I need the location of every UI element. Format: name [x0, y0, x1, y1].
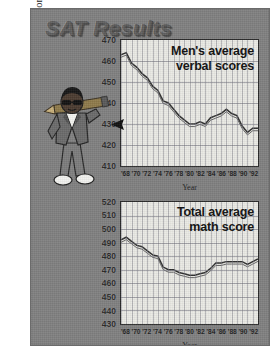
chart-verbal: 470 460 450 440 430 420 410 [89, 39, 261, 191]
grid-line-v [153, 202, 154, 324]
grid-line-h [121, 145, 258, 146]
grid-line-v [168, 202, 169, 324]
x-tick: '90 [239, 170, 248, 177]
grid-line-v [163, 202, 164, 324]
figure-root: Source: Copyright 1993. USA TODAY. Repri… [0, 0, 278, 355]
x-tick: '80 [185, 328, 194, 335]
x-tick: '86 [217, 170, 226, 177]
x-tick: '78 [174, 328, 183, 335]
x-tick: '92 [249, 328, 258, 335]
x-tick: '76 [164, 328, 173, 335]
x-tick: '70 [132, 170, 141, 177]
x-tick: '70 [132, 328, 141, 335]
grid-line-v [132, 202, 133, 324]
figure-panel: SAT Results [30, 8, 270, 346]
y-tick: 500 [102, 224, 116, 234]
chart-math: 520 510 500 490 480 470 460 450 440 430 [89, 201, 261, 346]
chart-verbal-x-axis: '68'70'72'74'76'78'80'82'84'86'88'90'92 [120, 170, 259, 180]
x-tick: '72 [142, 328, 151, 335]
y-tick: 480 [102, 251, 116, 261]
x-tick: '82 [196, 170, 205, 177]
y-tick: 470 [102, 35, 116, 45]
x-tick: '86 [217, 328, 226, 335]
chart-math-y-axis: 520 510 500 490 480 470 460 450 440 430 [89, 201, 118, 325]
chart-verbal-caption: Men's average verbal scores [171, 44, 254, 74]
chart-verbal-x-axis-title: Year [120, 183, 259, 192]
x-tick: '88 [228, 328, 237, 335]
grid-line-v [137, 202, 138, 324]
grid-line-h [121, 256, 258, 257]
grid-line-v [158, 202, 159, 324]
pointer-arrow-icon [111, 119, 127, 130]
y-tick: 460 [102, 56, 116, 66]
grid-line-v [121, 202, 122, 324]
grid-line-h [121, 297, 258, 298]
y-tick: 440 [102, 306, 116, 316]
x-tick: '68 [121, 170, 130, 177]
x-tick: '84 [206, 170, 215, 177]
grid-line-v [258, 40, 259, 166]
caption-line-2: verbal scores [171, 59, 254, 74]
y-tick: 470 [102, 265, 116, 275]
y-tick: 450 [102, 292, 116, 302]
chart-math-caption: Total average math score [177, 205, 254, 235]
y-tick: 430 [102, 319, 116, 329]
x-tick: '74 [153, 328, 162, 335]
grid-line-v [147, 202, 148, 324]
chart-math-x-axis: '68'70'72'74'76'78'80'82'84'86'88'90'92 [120, 328, 259, 338]
grid-line-h [121, 243, 258, 244]
x-tick: '72 [142, 170, 151, 177]
grid-line-v [126, 202, 127, 324]
x-tick: '74 [153, 170, 162, 177]
grid-line-h [121, 270, 258, 271]
grid-line-h [121, 283, 258, 284]
grid-line-v [174, 202, 175, 324]
caption-line-2: math score [177, 220, 254, 235]
chart-math-x-axis-title: Year [120, 341, 259, 346]
x-tick: '84 [206, 328, 215, 335]
x-tick: '80 [185, 170, 194, 177]
x-tick: '78 [174, 170, 183, 177]
caption-line-1: Total average [177, 205, 254, 220]
y-tick: 520 [102, 197, 116, 207]
caption-line-1: Men's average [171, 44, 254, 59]
x-tick: '90 [239, 328, 248, 335]
y-tick: 490 [102, 238, 116, 248]
grid-line-h [121, 310, 258, 311]
grid-line-h [121, 124, 258, 125]
x-tick: '92 [249, 170, 258, 177]
grid-line-h [121, 82, 258, 83]
grid-line-h [121, 103, 258, 104]
y-tick: 460 [102, 278, 116, 288]
x-tick: '88 [228, 170, 237, 177]
x-tick: '76 [164, 170, 173, 177]
x-tick: '82 [196, 328, 205, 335]
x-tick: '68 [121, 328, 130, 335]
cartoon-student-with-pencil-icon [30, 81, 114, 193]
grid-line-v [142, 202, 143, 324]
grid-line-v [258, 202, 259, 324]
y-tick: 510 [102, 210, 116, 220]
